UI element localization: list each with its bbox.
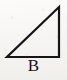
figure-container: B bbox=[0, 0, 67, 80]
triangle-label-b: B bbox=[0, 57, 67, 74]
triangle-outline bbox=[7, 7, 59, 57]
